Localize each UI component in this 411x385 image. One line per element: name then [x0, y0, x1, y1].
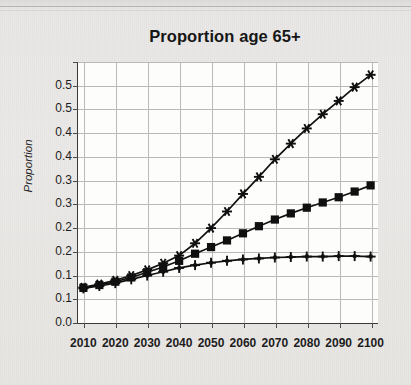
y-axis-title: Proportion [22, 121, 34, 211]
y-axis-tick-label: 0.1 [38, 291, 72, 305]
x-axis-tick [340, 323, 341, 328]
gridline-horizontal [78, 133, 378, 134]
y-axis-tick-label: 0.2 [38, 220, 72, 234]
chart-title: Proportion age 65+ [60, 27, 390, 46]
gridline-vertical [340, 62, 341, 323]
y-axis-tick-labels: 0.00.10.10.20.20.30.30.40.40.50.5 [36, 62, 72, 323]
y-axis-tick-label: 0.0 [38, 315, 72, 329]
y-axis-tick [73, 62, 78, 63]
y-axis-tick-label: 0.4 [38, 125, 72, 139]
x-axis-tick [276, 323, 277, 328]
y-axis-tick-label: 0.1 [38, 268, 72, 282]
gridline-vertical [244, 62, 245, 323]
y-axis-tick [73, 299, 78, 300]
x-axis-tick [148, 323, 149, 328]
gridline-vertical [276, 62, 277, 323]
y-axis-tick [73, 204, 78, 205]
x-axis-tick [180, 323, 181, 328]
y-axis-tick [73, 181, 78, 182]
x-axis-tick [116, 323, 117, 328]
gridline-vertical [180, 62, 181, 323]
y-axis-tick-label: 0.5 [38, 78, 72, 92]
y-axis-tick [73, 276, 78, 277]
y-axis-tick [73, 157, 78, 158]
y-axis-tick-label: 0.2 [38, 244, 72, 258]
x-axis-tick [372, 323, 373, 328]
y-axis-tick [73, 86, 78, 87]
x-axis-tick-labels: 2010202020302040205020602070208020902100 [77, 336, 377, 354]
gridline-horizontal [78, 204, 378, 205]
gridline-horizontal [78, 109, 378, 110]
plot-area [77, 62, 378, 324]
gridline-vertical [308, 62, 309, 323]
plot-grid [78, 62, 378, 323]
chart-figure: Proportion age 65+ Proportion 0.00.10.10… [0, 0, 411, 385]
gridline-horizontal [78, 181, 378, 182]
y-axis-tick [73, 323, 78, 324]
y-axis-tick-label: 0.3 [38, 196, 72, 210]
y-axis-tick-label: 0.3 [38, 173, 72, 187]
gridline-horizontal [78, 86, 378, 87]
x-axis-tick [244, 323, 245, 328]
y-axis-tick [73, 228, 78, 229]
gridline-horizontal [78, 157, 378, 158]
x-axis-tick-label: 2100 [349, 336, 393, 350]
x-axis-tick [84, 323, 85, 328]
y-axis-tick-label: 0.5 [38, 101, 72, 115]
gridline-vertical [372, 62, 373, 323]
gridline-vertical [84, 62, 85, 323]
gridline-horizontal [78, 276, 378, 277]
gridline-horizontal [78, 228, 378, 229]
gridline-horizontal [78, 299, 378, 300]
y-axis-tick [73, 252, 78, 253]
gridline-vertical [212, 62, 213, 323]
x-axis-tick [212, 323, 213, 328]
y-axis-tick [73, 133, 78, 134]
x-axis-tick [308, 323, 309, 328]
gridline-vertical [148, 62, 149, 323]
gridline-vertical [116, 62, 117, 323]
y-axis-tick [73, 109, 78, 110]
gridline-horizontal [78, 62, 378, 63]
gridline-horizontal [78, 252, 378, 253]
y-axis-tick-label: 0.4 [38, 149, 72, 163]
